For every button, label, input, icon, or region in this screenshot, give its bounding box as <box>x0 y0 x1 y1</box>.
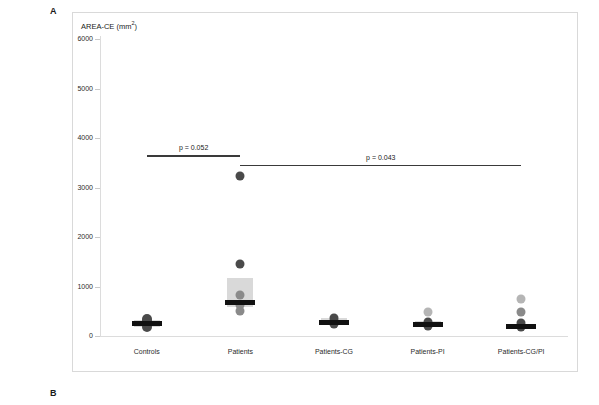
y-tick-label: 3000 <box>77 184 93 191</box>
x-tick-label: Patients-CG/PI <box>474 348 568 355</box>
p-value-label: p = 0.043 <box>240 154 521 161</box>
box-group-patients-cg-pi[interactable]: Patients-CG/PI <box>474 40 568 337</box>
median-line <box>413 322 443 327</box>
y-axis-title: AREA-CE (mm2) <box>81 20 137 31</box>
box-group-patients-cg[interactable]: Patients-CG <box>287 40 381 337</box>
y-tick-label: 5000 <box>77 85 93 92</box>
x-tick-label: Patients-PI <box>381 348 475 355</box>
y-tick-label: 4000 <box>77 134 93 141</box>
y-tick-label: 0 <box>89 332 93 339</box>
x-tick-label: Patients-CG <box>287 348 381 355</box>
median-line <box>225 300 255 305</box>
data-point <box>423 307 432 316</box>
data-point <box>236 290 245 299</box>
median-line <box>132 321 162 326</box>
box-group-patients[interactable]: Patients <box>194 40 288 337</box>
panel-label-b: B <box>50 388 57 398</box>
data-point <box>517 295 526 304</box>
box-group-patients-pi[interactable]: Patients-PI <box>381 40 475 337</box>
x-tick-label: Controls <box>100 348 194 355</box>
data-point <box>517 308 526 317</box>
plot-area: 0100020003000400050006000 ControlsPatien… <box>100 40 568 337</box>
box-group-controls[interactable]: Controls <box>100 40 194 337</box>
y-tick-label: 2000 <box>77 233 93 240</box>
data-point <box>236 172 245 181</box>
panel-label-a: A <box>50 6 57 16</box>
x-tick-label: Patients <box>194 348 288 355</box>
y-tick-label: 1000 <box>77 283 93 290</box>
median-line <box>506 324 536 329</box>
data-point <box>236 259 245 268</box>
p-value-label: p = 0.052 <box>147 144 241 151</box>
median-line <box>319 320 349 325</box>
y-tick-label: 6000 <box>77 35 93 42</box>
significance-line <box>147 155 241 157</box>
data-point <box>236 306 245 315</box>
significance-line <box>240 165 521 167</box>
chart-panel-a: AREA-CE (mm2) 0100020003000400050006000 … <box>72 12 578 372</box>
